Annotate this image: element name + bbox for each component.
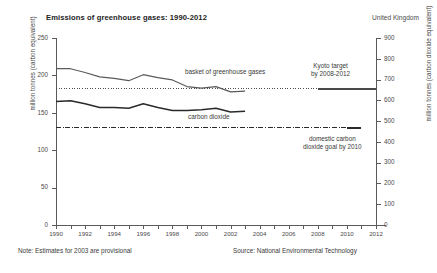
x-tick-label: 1992	[70, 231, 100, 237]
x-tick-label: 2010	[332, 231, 362, 237]
y-tick-label-left: 250	[37, 35, 48, 41]
y-tick-label-left: 0	[44, 222, 48, 228]
x-tick-label: 2008	[303, 231, 333, 237]
x-tick-label: 2000	[186, 231, 216, 237]
x-tick-label: 1998	[157, 231, 187, 237]
y-tick-label-right: 800	[384, 56, 395, 62]
x-tick-label: 2012	[361, 231, 391, 237]
x-tick-label: 2002	[216, 231, 246, 237]
annotation-kyoto-target: Kyoto target by 2008-2012	[311, 62, 350, 79]
y-tick-label-right: 200	[384, 180, 395, 186]
domestic-goal-line1: domestic carbon	[303, 135, 362, 143]
kyoto-target-line2: by 2008-2012	[311, 70, 350, 78]
y-tick-label-right: 700	[384, 76, 395, 82]
annotation-basket: basket of greenhouse gases	[185, 68, 265, 76]
y-tick-label-left: 100	[37, 147, 48, 153]
y-axis-left-title: million tonnes (carbon equivalent)	[29, 0, 36, 144]
x-tick-label: 1994	[99, 231, 129, 237]
y-tick-label-left: 200	[37, 72, 48, 78]
chart-page: Emissions of greenhouse gases: 1990-2012…	[0, 0, 437, 273]
kyoto-target-line1: Kyoto target	[311, 62, 350, 70]
annotation-carbon-dioxide: carbon dioxide	[188, 113, 230, 121]
y-tick-label-left: 50	[41, 184, 48, 190]
x-tick-label: 1996	[128, 231, 158, 237]
y-tick-label-right: 900	[384, 35, 395, 41]
y-tick-label-right: 600	[384, 97, 395, 103]
x-tick-label: 2004	[245, 231, 275, 237]
y-tick-label-left: 150	[37, 110, 48, 116]
domestic-goal-line2: dioxide goal by 2010	[303, 143, 362, 151]
y-tick-label-right: 300	[384, 159, 395, 165]
y-tick-label-right: 500	[384, 118, 395, 124]
y-tick-label-right: 0	[384, 222, 388, 228]
footer-source: Source: National Environmental Technolog…	[233, 247, 357, 254]
x-tick-label: 2006	[274, 231, 304, 237]
annotation-domestic-goal: domestic carbon dioxide goal by 2010	[303, 135, 362, 152]
y-axis-right-title: million tonnes (carbon dioxide equivalen…	[425, 0, 432, 159]
x-tick-label: 1990	[41, 231, 71, 237]
y-tick-label-right: 100	[384, 201, 395, 207]
footer-note: Note: Estimates for 2003 are provisional	[18, 247, 132, 254]
data-series-line	[56, 101, 245, 112]
y-tick-label-right: 400	[384, 139, 395, 145]
